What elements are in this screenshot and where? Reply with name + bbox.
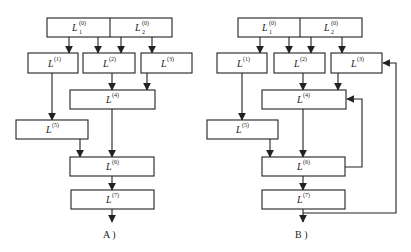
node-l5: L (5) [16,120,88,139]
node-l4: L (4) [70,90,155,109]
svg-text:L: L [296,161,303,172]
svg-text:(2): (2) [300,56,307,63]
svg-text:L: L [293,58,300,69]
node-l1: L (1) [28,53,78,73]
node-l2: L (2) [83,53,135,73]
svg-text:(5): (5) [242,122,249,129]
svg-text:L: L [350,58,357,69]
node-l5: L (5) [207,120,278,139]
node-l1: L (1) [217,53,267,73]
label-l0-2: L [134,22,141,33]
svg-text:L: L [236,58,243,69]
svg-text:(4): (4) [112,92,119,99]
svg-text:L: L [105,94,112,105]
node-l6: L (6) [262,157,345,176]
svg-text:(0): (0) [331,20,338,27]
node-l7: L (7) [262,190,345,209]
svg-text:L: L [160,58,167,69]
diagram-b: L (0) 1 L (0) 2 L (1) L (2) L (3) [207,18,396,241]
feedback-l6-l4 [345,99,362,167]
svg-text:L: L [105,161,112,172]
label-l0-1: L [71,22,78,33]
svg-text:(3): (3) [167,56,174,63]
diagram-canvas: L (0) 1 L (0) 2 L (1) L (2) L (3) [0,0,411,252]
caption-a: A ) [103,229,116,241]
svg-text:(1): (1) [243,56,250,63]
caption-b: B ) [295,229,308,241]
node-l7: L (7) [71,190,154,209]
diagram-a: L (0) 1 L (0) 2 L (1) L (2) L (3) [16,18,192,241]
svg-text:L: L [45,124,52,135]
node-l4: L (4) [262,90,346,109]
svg-text:(4): (4) [303,92,310,99]
svg-text:1: 1 [269,29,272,35]
node-l3: L (3) [331,53,382,73]
node-l3: L (3) [141,53,192,73]
svg-text:L: L [296,94,303,105]
svg-text:L: L [323,22,330,33]
svg-text:(2): (2) [109,56,116,63]
svg-text:(5): (5) [52,122,59,129]
node-l6: L (6) [70,157,154,176]
svg-text:L: L [105,194,112,205]
sup-l0-2: (0) [142,20,149,27]
svg-text:2: 2 [331,29,334,35]
node-l2: L (2) [274,53,325,73]
svg-text:(6): (6) [303,159,310,166]
svg-text:L: L [47,58,54,69]
sub-l0-2: 2 [142,29,145,35]
sup-l0-1: (0) [79,20,86,27]
svg-text:(6): (6) [112,159,119,166]
svg-text:(7): (7) [303,192,310,199]
svg-text:L: L [235,124,242,135]
svg-text:(0): (0) [269,20,276,27]
svg-text:(1): (1) [54,56,61,63]
node-l0: L (0) 1 L (0) 2 [238,18,362,37]
svg-text:(7): (7) [112,192,119,199]
svg-text:L: L [296,194,303,205]
sub-l0-1: 1 [79,29,82,35]
svg-text:L: L [102,58,109,69]
node-l0: L (0) 1 L (0) 2 [47,18,172,37]
svg-text:(3): (3) [357,56,364,63]
svg-text:L: L [261,22,268,33]
